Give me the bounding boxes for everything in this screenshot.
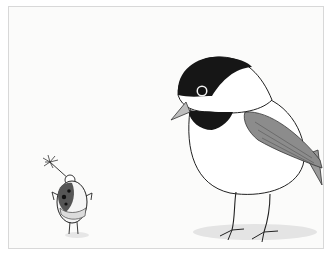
bug-shadow [65,232,89,238]
flower [43,155,58,168]
bug-character [43,155,92,234]
illustration [0,0,329,258]
chickadee-bird [171,57,322,242]
